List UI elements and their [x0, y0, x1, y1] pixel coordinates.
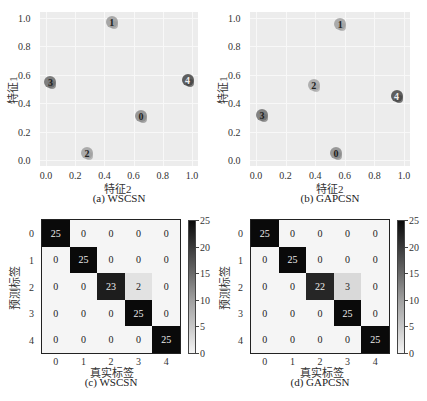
- colorbar-tick-mark: [405, 247, 408, 248]
- x-tick-label: 2: [318, 356, 323, 367]
- cluster-label: 3: [259, 109, 264, 120]
- x-tick-label: 3: [136, 356, 141, 367]
- grid-line: [250, 103, 410, 104]
- x-tick-label: 0.0: [250, 170, 263, 181]
- matrix-cell: 0: [251, 300, 279, 327]
- y-tick-label: 0.4: [228, 98, 241, 109]
- confusion-matrix: 250000025000002230000250000025: [250, 219, 390, 354]
- x-tick-label: 1: [290, 356, 295, 367]
- matrix-cell: 0: [152, 273, 180, 300]
- grid-line: [75, 12, 76, 166]
- y-tick-label: 0.2: [228, 126, 241, 137]
- matrix-cell: 25: [70, 247, 98, 274]
- x-tick-label: 0.6: [127, 170, 140, 181]
- grid-line: [404, 12, 405, 166]
- x-tick-label: 1.0: [186, 170, 199, 181]
- x-tick-label: 1: [81, 356, 86, 367]
- matrix-cell: 2: [125, 273, 153, 300]
- colorbar-tick-label: 0: [409, 348, 414, 359]
- matrix-cell: 0: [306, 220, 334, 247]
- matrix-cell: 22: [306, 273, 334, 300]
- cluster-label: 4: [394, 91, 399, 102]
- grid-line: [256, 12, 257, 166]
- cluster-label: 3: [48, 76, 53, 87]
- grid-line: [40, 75, 198, 76]
- colorbar-tick-label: 15: [200, 268, 210, 279]
- scatter-plot-area: 01234: [250, 12, 410, 166]
- matrix-cell: 0: [279, 326, 307, 353]
- y-tick-label: 1: [238, 254, 243, 265]
- grid-line: [286, 12, 287, 166]
- grid-line: [192, 12, 193, 166]
- colorbar-tick-mark: [405, 300, 408, 301]
- cluster-label: 0: [138, 110, 143, 121]
- matrix-cell: 0: [42, 247, 70, 274]
- y-tick-label: 1.0: [228, 13, 241, 24]
- matrix-cell: 0: [42, 326, 70, 353]
- grid-line: [345, 12, 346, 166]
- y-tick-label: 3: [29, 308, 34, 319]
- grid-line: [40, 18, 198, 19]
- y-tick-label: 2: [29, 281, 34, 292]
- colorbar-tick-mark: [196, 273, 199, 274]
- matrix-cell: 25: [251, 220, 279, 247]
- y-tick-label: 0: [29, 228, 34, 239]
- cluster-label: 2: [311, 79, 316, 90]
- colorbar-tick-mark: [405, 273, 408, 274]
- y-tick-label: 4: [29, 334, 34, 345]
- matrix-cell: 0: [334, 220, 362, 247]
- cluster-label: 1: [109, 17, 114, 28]
- matrix-cell: 0: [125, 220, 153, 247]
- y-tick-label: 4: [238, 334, 243, 345]
- colorbar-tick-mark: [196, 326, 199, 327]
- matrix-cell: 0: [70, 220, 98, 247]
- scatter-panel-b: 01234 特征1 特征2 (b) GAPCSN 0.00.00.20.20.4…: [212, 0, 427, 200]
- colorbar-tick-label: 0: [200, 348, 205, 359]
- colorbar-tick-mark: [196, 353, 199, 354]
- y-tick-label: 2: [238, 281, 243, 292]
- matrix-cell: 0: [97, 326, 125, 353]
- cluster-label: 2: [84, 147, 89, 158]
- grid-line: [104, 12, 105, 166]
- matrix-cell: 0: [306, 326, 334, 353]
- matrix-cell: 25: [125, 300, 153, 327]
- matrix-cell: 25: [42, 220, 70, 247]
- colorbar-tick-label: 10: [409, 294, 419, 305]
- colorbar-tick-mark: [405, 326, 408, 327]
- y-tick-label: 0.8: [228, 41, 241, 52]
- colorbar-tick-label: 20: [200, 241, 210, 252]
- grid-line: [374, 12, 375, 166]
- matrix-cell: 0: [152, 247, 180, 274]
- y-tick-label: 3: [238, 308, 243, 319]
- heatmap-panel-d: 250000025000002230000250000025 预测标签 真实标签…: [212, 200, 427, 390]
- matrix-cell: 0: [251, 247, 279, 274]
- matrix-cell: 0: [70, 326, 98, 353]
- x-tick-label: 2: [109, 356, 114, 367]
- matrix-cell: 0: [251, 273, 279, 300]
- y-tick-label: 0: [238, 228, 243, 239]
- x-tick-label: 0.4: [98, 170, 111, 181]
- y-tick-label: 1: [29, 254, 34, 265]
- grid-line: [40, 132, 198, 133]
- x-tick-label: 0: [53, 356, 58, 367]
- matrix-cell: 0: [97, 300, 125, 327]
- matrix-cell: 0: [361, 247, 389, 274]
- grid-line: [40, 160, 198, 161]
- colorbar-tick-label: 25: [200, 215, 210, 226]
- grid-line: [250, 160, 410, 161]
- matrix-cell: 0: [152, 220, 180, 247]
- x-tick-label: 4: [373, 356, 378, 367]
- matrix-cell: 0: [42, 300, 70, 327]
- colorbar-tick-label: 15: [409, 268, 419, 279]
- y-tick-label: 1.0: [18, 13, 31, 24]
- x-tick-label: 0.4: [309, 170, 322, 181]
- colorbar-tick-mark: [405, 220, 408, 221]
- y-tick-label: 0.0: [18, 155, 31, 166]
- grid-line: [250, 18, 410, 19]
- matrix-cell: 25: [361, 326, 389, 353]
- colorbar-tick-label: 10: [200, 294, 210, 305]
- confusion-matrix: 250000025000002320000250000025: [41, 219, 181, 354]
- matrix-cell: 0: [334, 326, 362, 353]
- x-tick-label: 3: [345, 356, 350, 367]
- matrix-cell: 0: [152, 300, 180, 327]
